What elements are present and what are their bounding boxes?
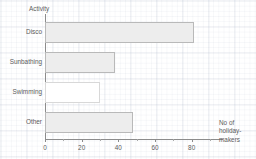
x-tick-minor [210,139,211,141]
bar-row [45,18,210,48]
x-tick-mark [82,139,83,142]
x-tick-mark [45,139,46,142]
x-tick-minor [173,139,174,141]
x-tick-label: 0 [35,145,55,151]
y-axis-title: Activity [29,6,49,12]
x-axis-line [45,139,223,140]
category-label-disco: Disco [0,29,42,35]
bar-sunbathing [45,52,115,73]
x-tick-label: 60 [145,145,165,151]
x-axis-title: No ofholiday-makers [219,119,241,144]
x-axis-title-line: makers [219,136,241,144]
x-tick-minor [137,139,138,141]
x-tick-minor [63,139,64,141]
x-tick-label: 80 [182,145,202,151]
bar-disco [45,22,194,43]
x-tick-mark [118,139,119,142]
plot-area [45,18,210,138]
category-label-sunbathing: Sunbathing [0,59,42,65]
category-label-other: Other [0,119,42,125]
x-tick-minor [100,139,101,141]
bar-row [45,48,210,78]
category-label-swimming: Swimming [0,89,42,95]
bar-row [45,78,210,108]
bar-chart: Activity Disco Sunbathing Swimming Other… [0,0,256,159]
bar-other [45,112,133,133]
x-axis-title-line: No of [219,119,241,127]
x-tick-mark [155,139,156,142]
bar-row [45,108,210,138]
x-tick-mark [192,139,193,142]
x-tick-label: 40 [108,145,128,151]
bar-swimming [45,82,100,103]
x-axis-title-line: holiday- [219,127,241,135]
x-tick-label: 20 [72,145,92,151]
